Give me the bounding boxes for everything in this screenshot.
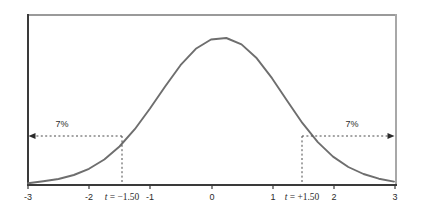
x-tick-label-neg2: -2 [85,193,93,202]
normal-distribution-figure: -3 -2 -1 0 1 2 3 t = −1.50 t = +1.50 7% … [0,0,423,214]
right-cut-t-label: t = +1.50 [285,193,320,203]
left-cut-t-value: = −1.50 [107,192,139,202]
left-tail-arrow [29,133,123,139]
normal-curve [28,38,394,183]
x-tick-label-zero: 0 [209,193,214,202]
chart-overlay [0,0,423,214]
x-tick-label-pos3: 3 [392,193,397,202]
right-tail-arrow [302,133,395,139]
x-tick-label-pos2: 2 [331,193,336,202]
right-tail-percent-label: 7% [345,120,358,129]
right-cut-t-value: = +1.50 [287,192,319,202]
x-tick-label-neg1: -1 [146,193,154,202]
x-tick-label-pos1: 1 [270,193,275,202]
x-tick-label-neg3: -3 [24,193,32,202]
left-tail-percent-label: 7% [55,120,68,129]
x-axis-ticks [28,184,395,189]
left-cut-t-label: t = −1.50 [105,193,140,203]
